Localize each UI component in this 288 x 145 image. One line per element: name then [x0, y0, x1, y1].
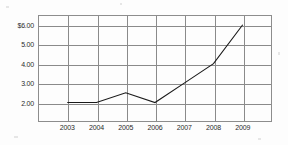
x-axis: 2003200420052006200720082009 — [38, 124, 272, 140]
scan-artifact — [14, 136, 18, 138]
x-axis-tick-label: 2003 — [60, 124, 75, 131]
x-axis-tick-label: 2005 — [118, 124, 133, 131]
y-axis-tick-label: $6.00 — [17, 21, 34, 28]
x-axis-tick-label: 2007 — [177, 124, 192, 131]
y-axis-tick-label: 3.00 — [21, 80, 34, 87]
data-series-line — [38, 15, 272, 122]
y-axis: $6.005.004.003.002.00 — [0, 15, 34, 122]
scan-artifact — [258, 138, 261, 140]
line-chart: $6.005.004.003.002.00 200320042005200620… — [0, 0, 288, 145]
scan-artifact — [278, 52, 280, 55]
x-axis-tick-label: 2006 — [148, 124, 163, 131]
series-polyline — [67, 25, 243, 103]
y-axis-tick-label: 5.00 — [21, 41, 34, 48]
y-axis-tick-label: 2.00 — [21, 99, 34, 106]
y-axis-tick-label: 4.00 — [21, 60, 34, 67]
scan-artifact — [6, 6, 9, 8]
scan-artifact — [120, 3, 122, 5]
x-axis-tick-label: 2004 — [89, 124, 104, 131]
x-axis-tick-label: 2008 — [206, 124, 221, 131]
x-axis-tick-label: 2009 — [235, 124, 250, 131]
